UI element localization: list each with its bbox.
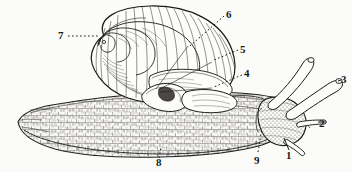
label-3: 3 [341,74,347,85]
label-8: 8 [156,157,162,168]
label-6: 6 [226,9,232,20]
label-5: 5 [240,44,246,55]
label-4: 4 [244,68,250,79]
snail-illustration [0,0,352,172]
label-7: 7 [58,30,64,41]
label-2: 2 [319,118,325,129]
snail-anatomy-figure: 1 2 3 4 5 6 7 8 9 [0,0,352,172]
label-9: 9 [254,155,260,166]
label-1: 1 [286,150,292,161]
